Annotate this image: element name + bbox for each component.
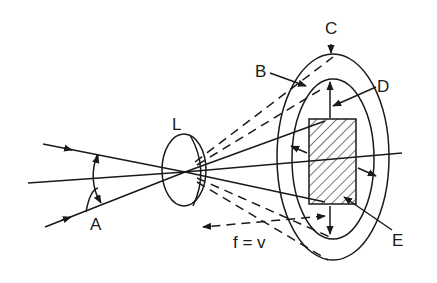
optics-diagram: C B D L A E f = v (0, 0, 437, 283)
side-arrow-left (291, 146, 307, 153)
image-sensor-rect (309, 119, 356, 204)
ray-to-rect-top (185, 121, 325, 172)
label-D: D (377, 77, 389, 96)
B-leader (270, 73, 306, 86)
label-E: E (392, 231, 403, 250)
label-C: C (325, 19, 337, 38)
label-B: B (255, 62, 266, 81)
ray-to-rect-bottom (185, 172, 325, 202)
ray-axis-outgoing (185, 153, 402, 172)
label-focal: f = v (233, 233, 266, 252)
dashed-ray-to-inner-top (197, 87, 325, 165)
label-A: A (90, 215, 102, 234)
ray-arrow-upper (64, 148, 72, 150)
label-L: L (172, 115, 181, 134)
ray-arrow-lower (62, 217, 71, 220)
angle-arc-A-arrow-bottom (97, 196, 101, 203)
